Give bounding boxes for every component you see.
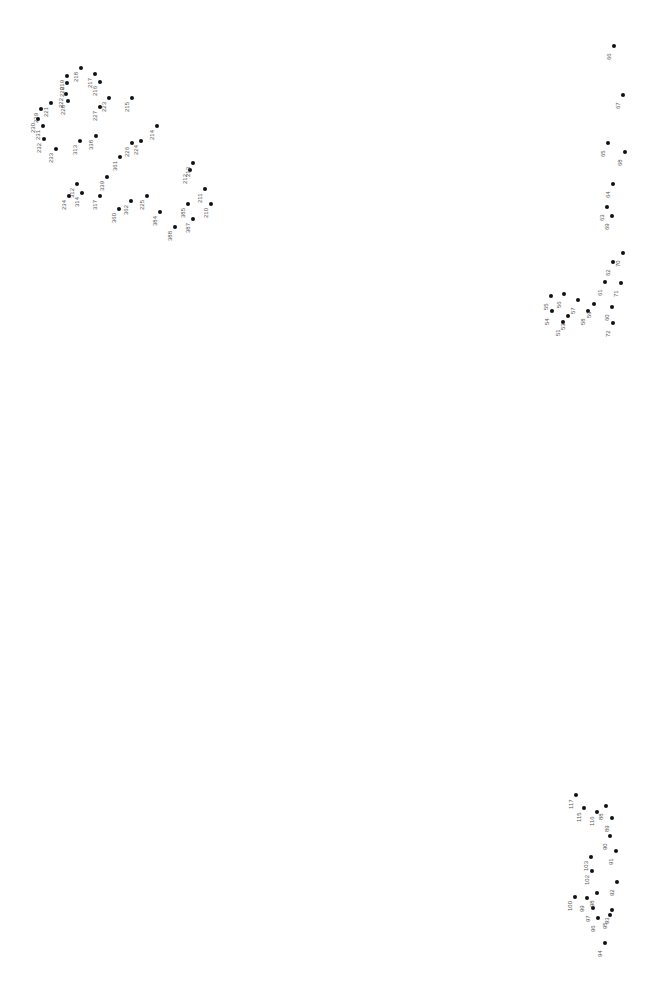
dot-number: 61 bbox=[597, 289, 603, 296]
puzzle-dot bbox=[93, 72, 97, 76]
dot-number: 92 bbox=[609, 889, 615, 896]
dot-number: 64 bbox=[605, 191, 611, 198]
puzzle-dot bbox=[49, 101, 53, 105]
puzzle-dot bbox=[203, 187, 207, 191]
dot-number: 218 bbox=[73, 72, 79, 82]
puzzle-dot bbox=[105, 175, 109, 179]
puzzle-dot bbox=[158, 210, 162, 214]
dot-number: 69 bbox=[604, 223, 610, 230]
dot-number: 102 bbox=[584, 875, 590, 885]
puzzle-dot bbox=[621, 251, 625, 255]
puzzle-dot bbox=[41, 124, 45, 128]
dot-number: 211 bbox=[197, 193, 203, 203]
dot-number: 71 bbox=[613, 290, 619, 297]
dot-number: 55 bbox=[543, 303, 549, 310]
puzzle-dot bbox=[582, 806, 586, 810]
dot-number: 117 bbox=[568, 799, 574, 809]
dot-number: 224 bbox=[133, 145, 139, 155]
puzzle-dot bbox=[606, 141, 610, 145]
puzzle-dot bbox=[94, 134, 98, 138]
dot-number: 89 bbox=[604, 825, 610, 832]
puzzle-dot bbox=[611, 182, 615, 186]
puzzle-dot bbox=[603, 280, 607, 284]
dot-number: 99 bbox=[579, 905, 585, 912]
puzzle-dot bbox=[173, 225, 177, 229]
puzzle-dot bbox=[585, 896, 589, 900]
dot-number: 317 bbox=[92, 200, 98, 210]
puzzle-dot bbox=[186, 202, 190, 206]
dot-number: 387 bbox=[185, 223, 191, 233]
puzzle-dot bbox=[562, 292, 566, 296]
dot-number: 216 bbox=[92, 86, 98, 96]
puzzle-dot bbox=[75, 182, 79, 186]
puzzle-dot bbox=[590, 869, 594, 873]
puzzle-dot bbox=[98, 105, 102, 109]
puzzle-dot bbox=[574, 793, 578, 797]
puzzle-dot bbox=[65, 81, 69, 85]
dot-number: 72 bbox=[605, 330, 611, 337]
dot-number: 232 bbox=[36, 143, 42, 153]
dot-number: 67 bbox=[615, 102, 621, 109]
dot-number: 215 bbox=[124, 102, 130, 112]
puzzle-dot bbox=[549, 294, 553, 298]
dot-number: 103 bbox=[583, 861, 589, 871]
puzzle-dot bbox=[64, 92, 68, 96]
puzzle-dot bbox=[66, 99, 70, 103]
puzzle-dot bbox=[139, 139, 143, 143]
dot-number: 70 bbox=[615, 260, 621, 267]
dot-number: 96 bbox=[590, 925, 596, 932]
puzzle-dot bbox=[573, 895, 577, 899]
dot-number: 93 bbox=[604, 917, 610, 924]
puzzle-dot bbox=[595, 810, 599, 814]
puzzle-dot bbox=[576, 298, 580, 302]
puzzle-dot bbox=[595, 891, 599, 895]
dot-number: 58 bbox=[580, 318, 586, 325]
puzzle-dot bbox=[612, 44, 616, 48]
dot-number: 314 bbox=[74, 197, 80, 207]
puzzle-dot bbox=[596, 916, 600, 920]
puzzle-dot bbox=[561, 320, 565, 324]
dot-number: 68 bbox=[617, 159, 623, 166]
dot-number: 115 bbox=[576, 812, 582, 822]
dot-number: 62 bbox=[605, 269, 611, 276]
dot-number: 214 bbox=[149, 130, 155, 140]
puzzle-dot bbox=[191, 217, 195, 221]
puzzle-dot bbox=[155, 124, 159, 128]
puzzle-dot bbox=[610, 816, 614, 820]
dot-number: 100 bbox=[567, 901, 573, 911]
dot-number: 226 bbox=[124, 147, 130, 157]
puzzle-dot bbox=[615, 880, 619, 884]
dot-number: 98 bbox=[589, 900, 595, 907]
puzzle-dot bbox=[550, 309, 554, 313]
dot-number: 54 bbox=[544, 318, 550, 325]
puzzle-dot bbox=[67, 194, 71, 198]
dot-number: 57 bbox=[570, 307, 576, 314]
puzzle-dot bbox=[39, 107, 43, 111]
puzzle-dot bbox=[42, 137, 46, 141]
puzzle-dot bbox=[130, 96, 134, 100]
puzzle-dot bbox=[614, 849, 618, 853]
puzzle-dot bbox=[605, 205, 609, 209]
puzzle-dot bbox=[610, 214, 614, 218]
puzzle-dot bbox=[611, 321, 615, 325]
dot-number: 361 bbox=[112, 161, 118, 171]
dot-number: 221 bbox=[43, 107, 49, 117]
dot-number: 388 bbox=[167, 231, 173, 241]
puzzle-dot bbox=[117, 207, 121, 211]
dot-number: 231 bbox=[35, 130, 41, 140]
puzzle-dot bbox=[604, 804, 608, 808]
puzzle-dot bbox=[592, 302, 596, 306]
puzzle-dot bbox=[80, 191, 84, 195]
puzzle-dot bbox=[610, 305, 614, 309]
puzzle-dot bbox=[78, 139, 82, 143]
dot-number: 63 bbox=[599, 214, 605, 221]
dot-number: 385 bbox=[180, 208, 186, 218]
dot-number: 225 bbox=[139, 200, 145, 210]
dot-number: 233 bbox=[48, 153, 54, 163]
puzzle-dot bbox=[145, 194, 149, 198]
dot-number: 384 bbox=[152, 216, 158, 226]
dot-number: 51 bbox=[555, 329, 561, 336]
dot-number: 213 bbox=[185, 167, 191, 177]
dot-number: 66 bbox=[606, 53, 612, 60]
dot-number: 360 bbox=[111, 213, 117, 223]
